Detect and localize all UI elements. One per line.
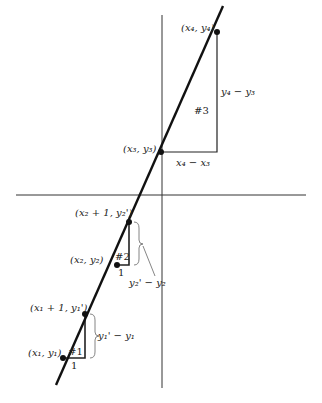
label-p2: (x₂, y₂) — [70, 255, 103, 265]
triangle-3-run: x₄ − x₃ — [176, 158, 210, 168]
triangle-2-number: #2 — [115, 252, 130, 262]
triangle-1-rise: y₁' − y₁ — [98, 331, 135, 341]
triangle-3-number: #3 — [194, 106, 209, 116]
point-p2b — [126, 219, 132, 225]
label-p1b: (x₁ + 1, y₁') — [30, 303, 87, 313]
label-p2b: (x₂ + 1, y₂') — [75, 208, 132, 218]
label-p1: (x₁, y₁) — [28, 348, 61, 358]
brace-2 — [134, 222, 143, 265]
triangle-3 — [161, 32, 217, 152]
point-p4 — [214, 29, 220, 35]
triangle-2-run: 1 — [118, 268, 124, 278]
leader-line-2 — [143, 246, 155, 276]
point-p3 — [158, 149, 164, 155]
label-p3: (x₃, y₃) — [123, 144, 156, 154]
triangle-1-run: 1 — [71, 361, 77, 371]
triangle-3-rise: y₄ − y₃ — [221, 87, 255, 97]
triangle-2-rise: y₂' − y₂ — [129, 278, 166, 288]
triangle-1-number: #1 — [68, 347, 83, 357]
label-p4: (x₄, y₄) — [181, 23, 214, 33]
slope-diagram — [0, 0, 322, 403]
